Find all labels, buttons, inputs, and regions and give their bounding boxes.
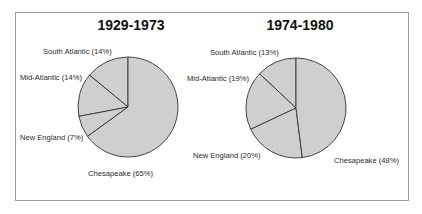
slice-label-new-england: New England (7%) (20, 133, 84, 142)
pie-charts: 1929-1973 South Atlantic (14%) Mid-Atlan… (0, 0, 422, 214)
pie-chart-1974-1980: 1974-1980 South Atlantic (13%) Mid-Atlan… (187, 17, 399, 165)
pie-slice-chesapeake (296, 58, 346, 158)
pie-chart-1929-1973: 1929-1973 South Atlantic (14%) Mid-Atlan… (20, 17, 178, 178)
slice-label-new-england: New England (20%) (193, 151, 261, 160)
slice-label-mid-atlantic: Mid-Atlantic (19%) (187, 74, 250, 83)
chart-title: 1974-1980 (267, 17, 334, 33)
slice-label-south-atlantic: South Atlantic (14%) (43, 47, 112, 56)
slice-label-chesapeake: Chesapeake (65%) (88, 169, 153, 178)
slice-label-mid-atlantic: Mid-Atlantic (14%) (20, 73, 83, 82)
chart-title: 1929-1973 (98, 17, 165, 33)
slice-label-south-atlantic: South Atlantic (13%) (210, 48, 279, 57)
slice-label-chesapeake: Chesapeake (48%) (334, 156, 399, 165)
